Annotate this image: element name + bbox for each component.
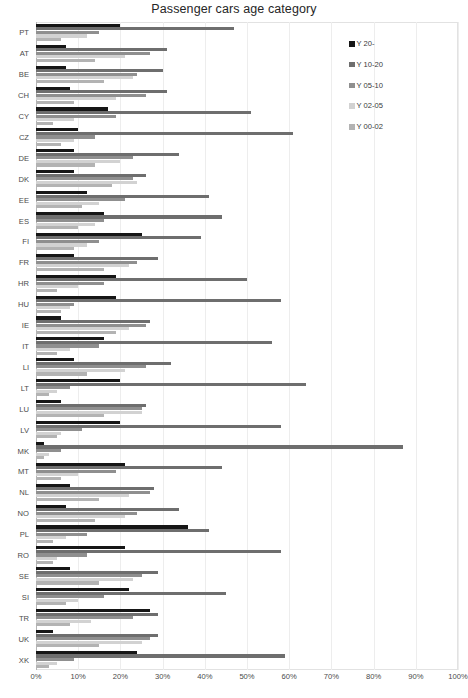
legend-label: Y 05-10 [357, 82, 383, 90]
y-axis-tick-label: AT [20, 49, 29, 58]
y-axis-tick-label: PT [19, 28, 29, 37]
x-axis-tick-label: 50% [239, 672, 254, 681]
bar-group [36, 377, 458, 398]
bar-group [36, 649, 458, 670]
y-axis-tick-label: DE [18, 153, 29, 162]
y-axis-tick-label: CH [18, 91, 29, 100]
y-axis-tick-label: LI [23, 362, 29, 371]
bar [36, 184, 112, 187]
x-axis-tick-label: 100% [448, 672, 467, 681]
x-axis-labels: 0%10%20%30%40%50%60%70%80%90%100% [36, 672, 458, 688]
bar-group [36, 252, 458, 273]
bar [36, 163, 95, 166]
bar [36, 143, 61, 146]
bar [36, 205, 82, 208]
bar [36, 226, 78, 229]
x-axis-tick-label: 60% [282, 672, 297, 681]
y-axis-tick-label: PL [20, 530, 29, 539]
bar-group [36, 127, 458, 148]
y-axis-tick-label: TR [19, 613, 29, 622]
bar [36, 561, 53, 564]
x-axis-tick-label: 20% [113, 672, 128, 681]
legend-item[interactable]: Y 02-05 [349, 102, 383, 110]
bar-group [36, 565, 458, 586]
bar-group [36, 524, 458, 545]
bar [36, 247, 74, 250]
y-axis-tick-label: FR [19, 258, 29, 267]
bar [36, 644, 99, 647]
bar [36, 414, 104, 417]
y-axis-tick-label: UK [18, 634, 29, 643]
y-axis-tick-label: LU [19, 404, 29, 413]
bar [36, 393, 49, 396]
grid-line [458, 22, 459, 670]
bar [36, 38, 61, 41]
y-axis-tick-label: LT [21, 383, 29, 392]
legend-label: Y 02-05 [357, 102, 383, 110]
y-axis-tick-label: SI [22, 592, 29, 601]
y-axis-tick-label: NL [19, 488, 29, 497]
legend-item[interactable]: Y 00-02 [349, 123, 383, 131]
legend-item[interactable]: Y 05-10 [349, 82, 383, 90]
bar [36, 59, 95, 62]
y-axis-tick-label: CY [18, 112, 29, 121]
y-axis-tick-label: LV [20, 425, 29, 434]
x-axis-tick-label: 80% [366, 672, 381, 681]
y-axis-tick-label: HR [18, 279, 29, 288]
bar-group [36, 419, 458, 440]
bar [36, 540, 53, 543]
legend-item[interactable]: Y 10-20 [349, 61, 383, 69]
y-axis-tick-label: MT [18, 467, 29, 476]
y-axis-tick-label: BE [19, 70, 29, 79]
bar [36, 665, 49, 668]
bar [36, 456, 44, 459]
bar [36, 581, 99, 584]
chart-title: Passenger cars age category [0, 2, 468, 16]
y-axis-tick-label: FI [22, 237, 29, 246]
bar-group [36, 189, 458, 210]
bar-group [36, 628, 458, 649]
chart-container: Passenger cars age category PTATBECHCYCZ… [0, 0, 468, 698]
y-axis-tick-label: HU [18, 300, 29, 309]
y-axis-tick-label: IT [22, 342, 29, 351]
y-axis-tick-label: IE [22, 321, 29, 330]
bar [36, 352, 57, 355]
bar-group [36, 315, 458, 336]
bar [36, 435, 57, 438]
x-axis-tick-label: 10% [71, 672, 86, 681]
bar-group [36, 22, 458, 43]
bar [36, 331, 116, 334]
bar-group [36, 607, 458, 628]
y-axis-tick-label: DK [18, 174, 29, 183]
bar-group [36, 482, 458, 503]
bar [36, 383, 306, 386]
chart-legend: Y 20-Y 10-20Y 05-10Y 02-05Y 00-02 [349, 40, 383, 131]
legend-item[interactable]: Y 20- [349, 40, 383, 48]
bar [36, 80, 104, 83]
bar-group [36, 231, 458, 252]
bar [36, 268, 104, 271]
bar [36, 372, 87, 375]
bar-group [36, 336, 458, 357]
y-axis-labels: PTATBECHCYCZDEDKEEESFIFRHRHUIEITLILTLULV… [0, 22, 33, 670]
bar-group [36, 586, 458, 607]
legend-label: Y 10-20 [357, 61, 383, 69]
y-axis-tick-label: MK [18, 446, 29, 455]
bar-group [36, 503, 458, 524]
y-axis-tick-label: EE [19, 195, 29, 204]
y-axis-tick-label: SE [19, 571, 29, 580]
bar [36, 122, 53, 125]
legend-swatch-icon [349, 83, 355, 89]
x-axis-tick-label: 0% [31, 672, 42, 681]
bar-group [36, 356, 458, 377]
bar [36, 519, 95, 522]
y-axis-tick-label: CZ [19, 132, 29, 141]
legend-swatch-icon [349, 124, 355, 130]
y-axis-tick-label: XK [19, 655, 29, 664]
bar [36, 289, 57, 292]
bar-group [36, 168, 458, 189]
bar-group [36, 294, 458, 315]
plot-area [36, 22, 458, 670]
legend-swatch-icon [349, 41, 355, 47]
bar-group [36, 461, 458, 482]
